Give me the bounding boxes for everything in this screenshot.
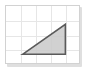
screenshot-canvas xyxy=(0,0,86,71)
triangle-svg xyxy=(6,6,79,63)
figure-layer xyxy=(6,6,79,63)
grid-panel[interactable] xyxy=(5,5,80,64)
right-triangle-shape[interactable] xyxy=(23,24,66,54)
